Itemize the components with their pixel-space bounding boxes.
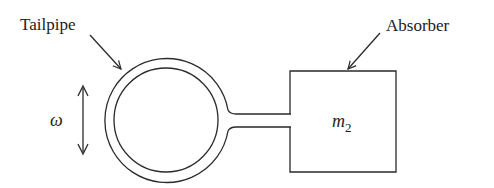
tailpipe-label: Tailpipe — [20, 15, 75, 34]
mass-label: m2 — [332, 111, 352, 135]
neck-bottom-edge — [228, 127, 291, 131]
tailpipe-leader-arrow — [90, 35, 121, 69]
omega-label: ω — [50, 110, 63, 130]
neck-top-edge — [228, 110, 291, 114]
mass-symbol: m — [332, 111, 345, 131]
absorber-label: Absorber — [386, 16, 450, 35]
oscillation-double-arrow — [78, 86, 88, 154]
tailpipe-absorber-diagram: Tailpipe ω m2 Absorber — [0, 0, 494, 188]
tailpipe-inner-circle — [114, 68, 218, 172]
mass-subscript: 2 — [345, 120, 352, 135]
tailpipe-ring — [105, 59, 291, 183]
absorber-leader-arrow — [348, 33, 380, 69]
